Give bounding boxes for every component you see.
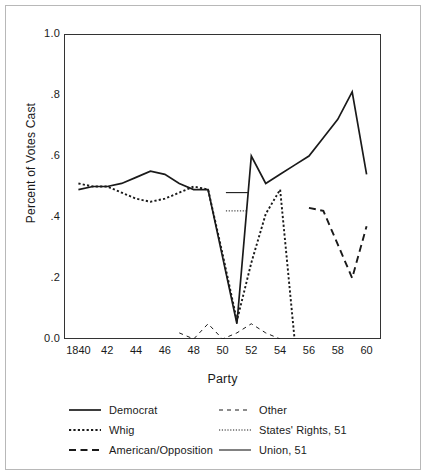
legend-label: Democrat	[109, 404, 157, 416]
legend-entry: Democrat	[68, 400, 218, 420]
x-tick-label: 60	[360, 344, 372, 356]
legend-label: States' Rights, 51	[259, 424, 347, 436]
legend-line-icon	[218, 425, 252, 435]
legend-label: Other	[259, 404, 287, 416]
legend-line-icon	[68, 425, 102, 435]
legend-entry: Whig	[68, 420, 218, 440]
legend-entry: Union, 51	[218, 440, 378, 460]
chart-legend: DemocratOtherWhigStates' Rights, 51Ameri…	[68, 400, 378, 460]
y-axis-tick-labels: 0.0.2.4.6.81.0	[22, 34, 60, 339]
legend-line-icon	[218, 445, 252, 455]
plot-border	[65, 35, 381, 339]
x-tick-label: 50	[216, 344, 228, 356]
x-tick-label: 48	[188, 344, 200, 356]
x-tick-label: 54	[274, 344, 286, 356]
y-tick-label: .8	[26, 89, 60, 100]
series-line-democrat	[78, 92, 366, 324]
x-tick-label: 58	[332, 344, 344, 356]
y-tick-label: .6	[26, 150, 60, 161]
figure-container: Percent of Votes Cast 0.0.2.4.6.81.0 184…	[0, 0, 426, 475]
x-tick-label: 56	[303, 344, 315, 356]
legend-entry: Other	[218, 400, 378, 420]
legend-line-icon	[218, 405, 252, 415]
x-tick-label: 44	[130, 344, 142, 356]
legend-label: American/Opposition	[109, 444, 213, 456]
x-axis-title: Party	[64, 372, 381, 386]
legend-label: Whig	[109, 424, 134, 436]
y-tick-label: 0.0	[26, 333, 60, 344]
legend-line-icon	[68, 405, 102, 415]
x-tick-label: 1840	[66, 344, 90, 356]
y-tick-label: 1.0	[26, 28, 60, 39]
plot-svg	[64, 34, 381, 339]
x-axis-tick-labels: 184042444648505254565860	[64, 344, 381, 360]
legend-entry: American/Opposition	[68, 440, 218, 460]
series-line-whig	[78, 183, 294, 339]
x-tick-label: 52	[245, 344, 257, 356]
legend-line-icon	[68, 445, 102, 455]
x-tick-label: 42	[101, 344, 113, 356]
x-tick-label: 46	[159, 344, 171, 356]
series-line-other	[179, 324, 280, 339]
series-line-american-opposition	[309, 208, 367, 278]
figure-frame: Percent of Votes Cast 0.0.2.4.6.81.0 184…	[5, 5, 421, 470]
plot-area	[64, 34, 381, 339]
legend-label: Union, 51	[259, 444, 307, 456]
y-tick-label: .4	[26, 211, 60, 222]
legend-entry: States' Rights, 51	[218, 420, 378, 440]
y-tick-label: .2	[26, 272, 60, 283]
